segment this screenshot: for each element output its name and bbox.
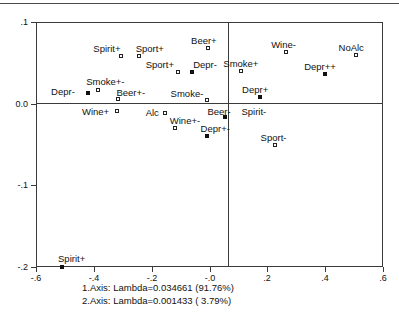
x-axis-tick-label: .2 [247, 274, 287, 283]
data-point-marker [273, 143, 277, 147]
x-zero-axis-line [36, 103, 383, 104]
scatter-plot-figure: -.6-.4-.2-.0.2.4.6.10.0-.1-.2 Spirit+Spo… [0, 0, 399, 323]
data-point-label: Depr+ [242, 85, 268, 95]
data-point-label: Beer+- [116, 88, 145, 98]
data-point-label: Depr+- [201, 124, 230, 134]
data-point-marker [137, 54, 141, 58]
data-point-marker [205, 134, 209, 138]
data-point-marker [354, 53, 358, 57]
x-axis-tick [325, 267, 326, 272]
data-point-marker [258, 95, 262, 99]
data-point-marker [163, 111, 167, 115]
y-axis-tick [31, 104, 36, 105]
data-point-marker [190, 70, 194, 74]
x-axis-tick [383, 267, 384, 272]
x-axis-tick [210, 267, 211, 272]
data-point-marker [115, 109, 119, 113]
data-point-label: Depr++ [304, 62, 336, 72]
data-point-label: Wine+ [82, 107, 109, 117]
data-point-marker [205, 98, 209, 102]
x-axis-tick [36, 267, 37, 272]
data-point-label: Wine+- [170, 116, 200, 126]
data-point-label: NoAlc [339, 43, 364, 53]
data-point-label: Spirit+ [93, 44, 120, 54]
top-divider-rule [0, 3, 399, 4]
data-point-label: Wine- [271, 40, 296, 50]
axis2-lambda-caption: 2.Axis: Lambda=0.001433 ( 3.79%) [82, 295, 231, 307]
y-axis-tick-label: .1 [0, 18, 28, 27]
data-point-label: Depr- [193, 60, 217, 70]
x-axis-tick-label: .6 [363, 274, 399, 283]
data-point-label: Smoke+- [86, 77, 124, 87]
x-axis-tick-label: -.6 [16, 274, 56, 283]
x-axis-tick [267, 267, 268, 272]
y-axis-tick [31, 185, 36, 186]
data-point-marker [96, 88, 100, 92]
y-axis-tick-label: -.1 [0, 181, 28, 190]
data-point-marker [206, 46, 210, 50]
data-point-marker [119, 54, 123, 58]
y-axis-tick [31, 22, 36, 23]
x-axis-tick [94, 267, 95, 272]
data-point-label: Sport+ [146, 60, 174, 70]
y-axis-tick-label: 0.0 [0, 100, 28, 109]
y-axis-tick-label: -.2 [0, 263, 28, 272]
data-point-marker [86, 91, 90, 95]
x-axis-tick [152, 267, 153, 272]
data-point-marker [239, 69, 243, 73]
x-axis-tick-label: .4 [305, 274, 345, 283]
data-point-marker [60, 265, 64, 269]
data-point-label: Spirit+ [58, 254, 85, 264]
data-point-marker [284, 50, 288, 54]
data-point-label: Beer+ [191, 36, 217, 46]
data-point-marker [176, 70, 180, 74]
axis1-lambda-caption: 1.Axis: Lambda=0.034661 (91.76%) [82, 282, 234, 294]
data-point-label: Sport- [261, 133, 287, 143]
data-point-label: Alc [146, 108, 159, 118]
data-point-label: Beer- [207, 107, 230, 117]
data-point-marker [173, 126, 177, 130]
data-point-label: Smoke+ [223, 59, 258, 69]
y-axis-tick [31, 267, 36, 268]
data-point-label: Spirit- [241, 107, 266, 117]
data-point-label: Sport+ [136, 44, 164, 54]
data-point-marker [323, 72, 327, 76]
data-point-label: Depr- [51, 87, 75, 97]
data-point-label: Smoke- [171, 89, 204, 99]
